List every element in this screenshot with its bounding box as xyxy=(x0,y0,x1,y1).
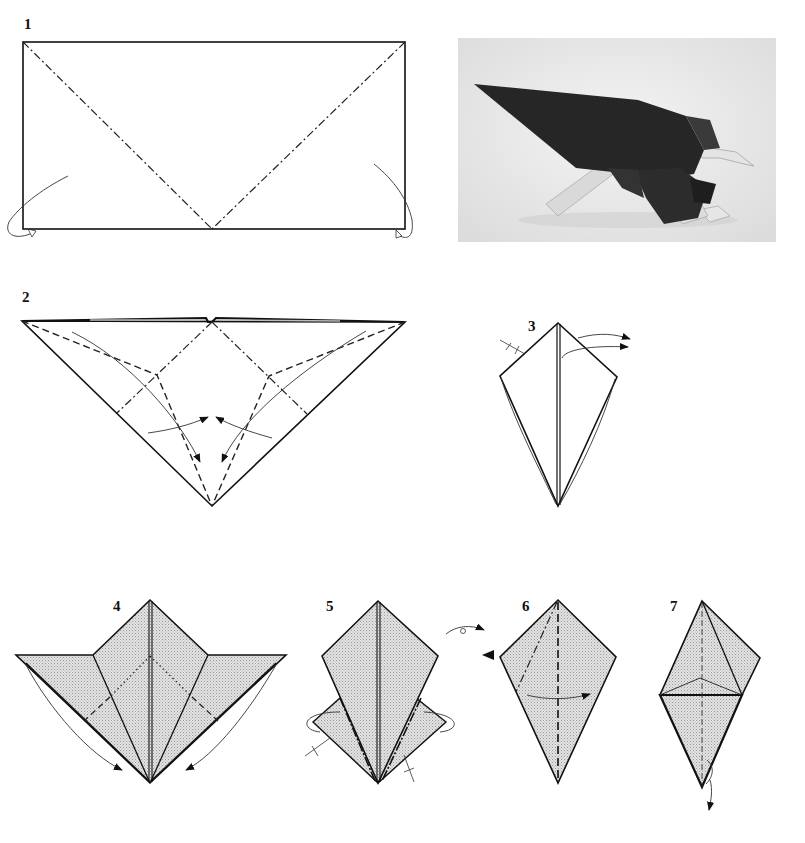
step-5-diagram xyxy=(305,601,484,783)
pointer-arrow-icon xyxy=(482,650,494,660)
step-2-diagram xyxy=(22,318,405,506)
step-4-diagram xyxy=(16,600,286,783)
step-6-diagram xyxy=(482,600,616,783)
step-1-diagram xyxy=(8,42,413,238)
step-7-diagram xyxy=(660,601,760,810)
step-3-diagram xyxy=(500,323,630,506)
folding-diagrams xyxy=(0,0,805,843)
